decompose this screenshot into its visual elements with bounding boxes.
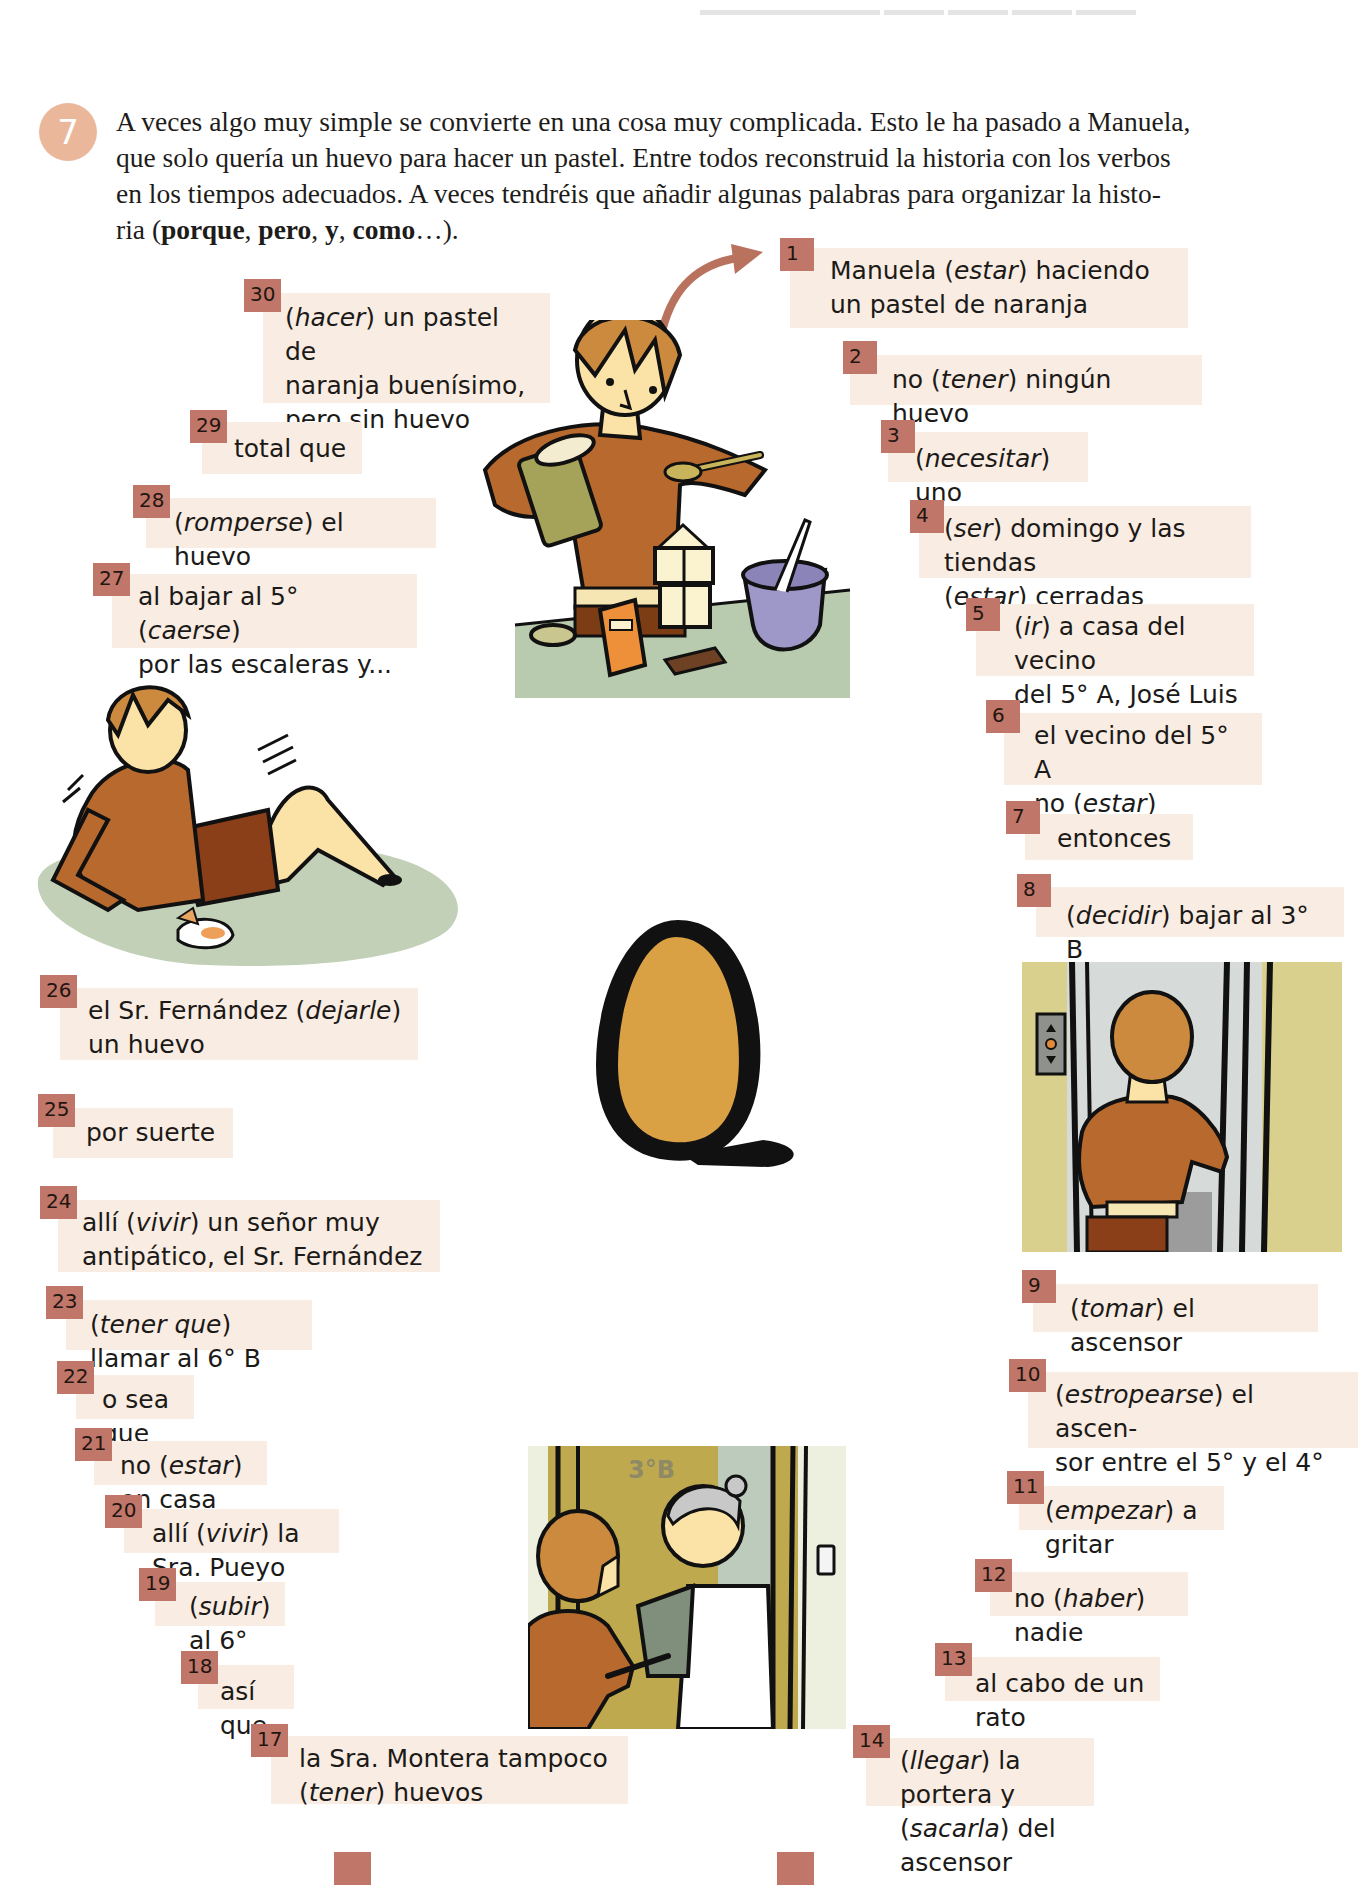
story-step-10: (estropearse) el ascen-sor entre el 5° y… bbox=[1028, 1372, 1358, 1448]
connector-word: y bbox=[325, 214, 339, 245]
door-sign: 3°B bbox=[628, 1456, 675, 1484]
story-step-20: allí (vivir) la Sra. Pueyo bbox=[124, 1509, 339, 1553]
verb-infinitive: tener que bbox=[100, 1310, 222, 1339]
step-text: (hacer) un pastel denaranja buenísimo,pe… bbox=[285, 299, 536, 437]
step-number-badge: 15 bbox=[777, 1852, 814, 1885]
step-number-badge: 13 bbox=[935, 1643, 972, 1676]
story-step-8: (decidir) bajar al 3° B bbox=[1036, 887, 1344, 937]
step-number-badge: 26 bbox=[40, 975, 77, 1008]
verb-infinitive: haber bbox=[1063, 1584, 1136, 1613]
step-text: allí (vivir) la Sra. Pueyo bbox=[152, 1515, 325, 1585]
story-step-26: el Sr. Fernández (dejarle)un huevo bbox=[60, 988, 418, 1060]
instructions-text: , bbox=[245, 214, 259, 245]
curved-arrow-icon bbox=[655, 240, 765, 330]
story-step-21: no (estar) en casa bbox=[94, 1441, 267, 1485]
connector-word: como bbox=[353, 214, 416, 245]
verb-infinitive: estropearse bbox=[1065, 1380, 1214, 1409]
step-text: por suerte bbox=[86, 1114, 219, 1150]
step-number-badge: 29 bbox=[190, 410, 227, 443]
step-text: al cabo de un rato bbox=[975, 1663, 1146, 1735]
step-number-badge: 7 bbox=[1006, 801, 1040, 834]
step-number-badge: 20 bbox=[105, 1495, 142, 1528]
step-number-badge: 1 bbox=[780, 238, 814, 271]
step-text: (llegar) la portera y(sacarla) del ascen… bbox=[900, 1744, 1080, 1880]
verb-infinitive: vivir bbox=[206, 1519, 260, 1548]
verb-infinitive: empezar bbox=[1055, 1496, 1165, 1525]
verb-infinitive: tomar bbox=[1080, 1294, 1155, 1323]
step-text: el Sr. Fernández (dejarle)un huevo bbox=[88, 994, 404, 1062]
story-step-4: (ser) domingo y las tiendas(estar) cerra… bbox=[919, 506, 1251, 578]
story-step-17: la Sra. Montera tampoco(tener) huevos bbox=[271, 1736, 628, 1804]
story-step-1: Manuela (estar) haciendoun pastel de nar… bbox=[790, 248, 1188, 328]
verb-infinitive: ser bbox=[954, 514, 993, 543]
verb-infinitive: caerse bbox=[148, 616, 231, 645]
story-step-27: al bajar al 5° (caerse)por las escaleras… bbox=[112, 574, 417, 648]
instructions-text: …). bbox=[415, 214, 459, 245]
story-step-23: (tener que) llamar al 6° B bbox=[66, 1300, 312, 1350]
step-number-badge: 3 bbox=[881, 420, 915, 453]
verb-infinitive: estar bbox=[169, 1451, 233, 1480]
verb-infinitive: decidir bbox=[1076, 901, 1161, 930]
step-number-badge: 23 bbox=[46, 1286, 83, 1319]
step-number-badge: 14 bbox=[853, 1725, 890, 1758]
step-number-badge: 17 bbox=[251, 1724, 288, 1757]
step-number-badge: 8 bbox=[1017, 874, 1051, 907]
story-step-12: no (haber) nadie bbox=[990, 1572, 1188, 1616]
verb-infinitive: sacarla bbox=[910, 1814, 1000, 1843]
exercise-instructions: A veces algo muy simple se convierte en … bbox=[116, 104, 1356, 248]
verb-infinitive: hacer bbox=[295, 303, 366, 332]
story-step-11: (empezar) a gritar bbox=[1019, 1486, 1224, 1530]
manuela-fallen-illustration bbox=[28, 680, 478, 970]
step-text: entonces bbox=[1057, 820, 1179, 856]
verb-infinitive: tener bbox=[941, 365, 1008, 394]
instructions-line: A veces algo muy simple se convierte en … bbox=[116, 104, 1356, 140]
step-text: no (tener) ningún huevo bbox=[892, 361, 1188, 431]
step-number-badge: 5 bbox=[966, 598, 1000, 631]
step-number-badge: 24 bbox=[40, 1186, 77, 1219]
story-step-30: (hacer) un pastel denaranja buenísimo,pe… bbox=[263, 293, 550, 403]
step-number-badge: 28 bbox=[133, 485, 170, 518]
step-number-badge: 11 bbox=[1007, 1471, 1044, 1504]
step-text: (tener que) llamar al 6° B bbox=[90, 1306, 298, 1376]
instructions-text: , bbox=[339, 214, 353, 245]
step-number-badge: 21 bbox=[75, 1428, 112, 1461]
connector-word: pero bbox=[258, 214, 311, 245]
step-text: no (haber) nadie bbox=[1014, 1578, 1174, 1650]
step-text: (empezar) a gritar bbox=[1045, 1492, 1210, 1562]
step-number-badge: 16 bbox=[334, 1852, 371, 1885]
story-step-28: (romperse) el huevo bbox=[146, 498, 436, 548]
page-header-cutoff bbox=[700, 0, 1260, 6]
step-text: total que bbox=[234, 428, 348, 466]
story-step-6: el vecino del 5° Ano (estar) bbox=[1004, 713, 1262, 785]
elevator-illustration bbox=[1022, 962, 1342, 1252]
step-number-badge: 9 bbox=[1022, 1270, 1056, 1303]
story-step-14: (llegar) la portera y(sacarla) del ascen… bbox=[866, 1738, 1094, 1806]
step-number-badge: 27 bbox=[93, 563, 130, 596]
step-number-badge: 10 bbox=[1009, 1359, 1046, 1392]
verb-infinitive: tener bbox=[309, 1778, 376, 1807]
door-3b-illustration: 3°B bbox=[528, 1446, 846, 1729]
egg-illustration bbox=[588, 915, 808, 1175]
verb-infinitive: llegar bbox=[910, 1746, 981, 1775]
step-text: al bajar al 5° (caerse)por las escaleras… bbox=[138, 580, 403, 682]
step-text: Manuela (estar) haciendoun pastel de nar… bbox=[830, 254, 1174, 322]
story-step-9: (tomar) el ascensor bbox=[1033, 1284, 1318, 1332]
step-text: (estropearse) el ascen-sor entre el 5° y… bbox=[1055, 1378, 1344, 1480]
story-step-3: (necesitar) uno bbox=[888, 432, 1088, 482]
connector-word: porque bbox=[161, 214, 245, 245]
story-step-7: entonces bbox=[1025, 814, 1193, 860]
verb-infinitive: estar bbox=[954, 256, 1018, 285]
step-number-badge: 18 bbox=[181, 1651, 218, 1684]
step-number-badge: 6 bbox=[986, 700, 1020, 733]
step-number-badge: 30 bbox=[244, 279, 281, 312]
step-number-badge: 25 bbox=[38, 1094, 75, 1127]
verb-infinitive: necesitar bbox=[925, 444, 1041, 473]
story-step-24: allí (vivir) un señor muyantipático, el … bbox=[58, 1200, 440, 1272]
verb-infinitive: ir bbox=[1024, 612, 1041, 641]
step-number-badge: 22 bbox=[57, 1361, 94, 1394]
step-text: el vecino del 5° Ano (estar) bbox=[1034, 719, 1248, 821]
verb-infinitive: dejarle bbox=[305, 996, 391, 1025]
verb-infinitive: romperse bbox=[184, 508, 304, 537]
step-number-badge: 2 bbox=[843, 341, 877, 374]
step-text: allí (vivir) un señor muyantipático, el … bbox=[82, 1206, 426, 1274]
